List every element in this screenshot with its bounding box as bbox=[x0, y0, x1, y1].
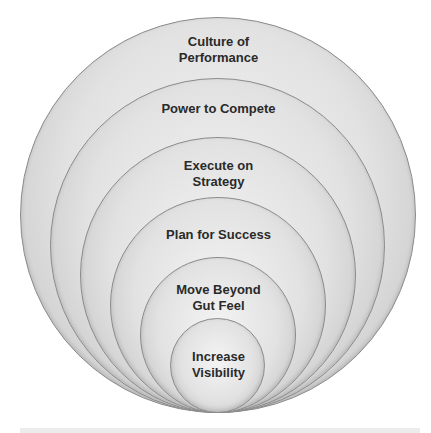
label-line: Gut Feel bbox=[3, 298, 431, 314]
layer-label: Plan for Success bbox=[3, 227, 431, 243]
label-line: Visibility bbox=[3, 365, 431, 381]
label-line: Move Beyond bbox=[3, 282, 431, 298]
layer-label: Increase Visibility bbox=[3, 349, 431, 381]
layer-label: Power to Compete bbox=[3, 101, 431, 117]
label-line: Culture of bbox=[3, 34, 431, 50]
label-line: Power to Compete bbox=[3, 101, 431, 117]
layer-label: Execute on Strategy bbox=[3, 158, 431, 190]
layer-label: Move Beyond Gut Feel bbox=[3, 282, 431, 314]
label-line: Performance bbox=[3, 50, 431, 66]
label-line: Execute on bbox=[3, 158, 431, 174]
label-line: Increase bbox=[3, 349, 431, 365]
footer-bar bbox=[20, 428, 420, 433]
label-line: Plan for Success bbox=[3, 227, 431, 243]
layer-label: Culture of Performance bbox=[3, 34, 431, 66]
label-line: Strategy bbox=[3, 174, 431, 190]
